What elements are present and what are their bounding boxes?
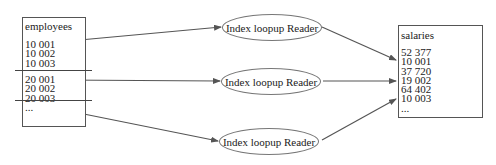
employees-group-2: 20 001 20 002 20 003 (25, 75, 55, 103)
arrow-reader3-to-salaries (322, 99, 396, 140)
reader-label: Index loopup Reader (223, 136, 315, 148)
index-lookup-reader-2: Index loopup Reader (221, 68, 321, 95)
salaries-rows: 52 377 10 001 37 720 19 002 64 402 10 00… (401, 48, 431, 113)
arrow-reader1-to-salaries (322, 27, 396, 60)
employee-row: 10 003 (25, 59, 55, 68)
index-lookup-reader-3: Index loopup Reader (219, 128, 319, 155)
reader-label: Index loopup Reader (226, 22, 318, 34)
salaries-table: salaries 52 377 10 001 37 720 19 002 64 … (398, 25, 483, 118)
employees-title: employees (25, 21, 72, 32)
employee-row-ellipsis: ... (25, 103, 33, 112)
diagram-canvas: employees 10 001 10 002 10 003 20 001 20… (0, 0, 496, 165)
reader-label: Index loopup Reader (225, 76, 317, 88)
employees-table: employees 10 001 10 002 10 003 20 001 20… (22, 17, 86, 127)
partition-divider (15, 100, 92, 101)
employees-group-3: ... (25, 103, 33, 112)
salaries-title: salaries (401, 30, 434, 41)
index-lookup-reader-1: Index loopup Reader (222, 14, 322, 41)
partition-divider (15, 70, 92, 71)
salary-row-ellipsis: ... (401, 104, 431, 113)
employees-group-1: 10 001 10 002 10 003 (25, 40, 55, 68)
